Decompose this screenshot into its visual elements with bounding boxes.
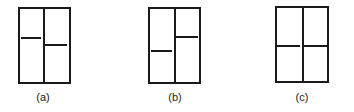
- panel-label-c: (c): [282, 91, 322, 103]
- right-level-c: [304, 45, 327, 47]
- right-level-b: [176, 36, 198, 38]
- panel-label-b: (b): [155, 91, 195, 103]
- left-level-c: [277, 45, 300, 47]
- left-level-b: [151, 50, 172, 52]
- panel-label-a: (a): [23, 91, 63, 103]
- left-level-a: [21, 37, 41, 39]
- container-box-b: [148, 7, 201, 84]
- right-level-a: [45, 44, 67, 46]
- partition-b: [174, 9, 176, 82]
